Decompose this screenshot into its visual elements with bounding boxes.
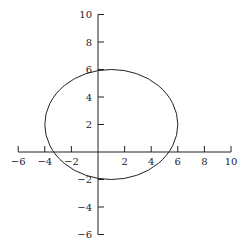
y-tick-label: −6 [77,229,92,240]
y-tick-label: 2 [86,119,92,130]
y-tick-label: −4 [77,202,92,213]
y-axis: 108642−2−4−6 [77,9,104,240]
x-tick-label: 8 [201,156,207,167]
x-tick-label: −4 [37,156,52,167]
y-tick-label: 10 [79,9,92,20]
x-tick-label: 6 [175,156,181,167]
y-tick-label: 8 [86,37,92,48]
chart: −6−4−2246810 108642−2−4−6 [0,0,248,250]
y-tick-label: 4 [86,92,92,103]
x-axis: −6−4−2246810 [11,146,238,167]
x-tick-label: −6 [11,156,26,167]
x-tick-label: 10 [225,156,238,167]
x-tick-label: 2 [121,156,127,167]
x-tick-label: 4 [148,156,154,167]
y-tick-label: −2 [77,174,92,185]
